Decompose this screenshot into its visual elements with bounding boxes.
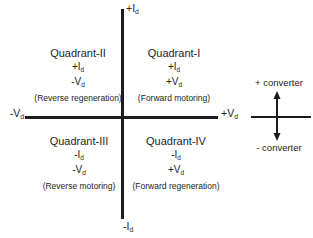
axis-label-plus-id: +Id	[126, 2, 139, 18]
four-quadrant-converter-diagram: +Id -Id -Vd +Vd Quadrant-II +Id -Vd (Rev…	[0, 0, 313, 238]
value-text: -V	[72, 164, 82, 175]
quadrant-4-title: Quadrant-IV	[121, 134, 231, 148]
value-subscript: d	[81, 66, 85, 73]
quadrant-1-block: Quadrant-I +Id +Vd (Forward motoring)	[119, 46, 229, 104]
positive-converter-label: + converter	[246, 77, 312, 88]
axis-label-text: +I	[126, 2, 135, 14]
quadrant-2-voltage-sign: -Vd	[23, 76, 133, 91]
value-subscript: d	[81, 81, 85, 88]
value-subscript: d	[80, 154, 84, 161]
up-down-arrow-icon	[271, 91, 283, 141]
axis-label-subscript: d	[135, 8, 139, 15]
axis-label-text: +V	[221, 107, 234, 119]
quadrant-1-voltage-sign: +Vd	[119, 76, 229, 91]
axis-label-subscript: d	[234, 113, 238, 120]
axis-label-minus-vd: -Vd	[2, 107, 24, 123]
quadrant-3-caption: (Reverse motoring)	[24, 181, 134, 192]
quadrant-2-title: Quadrant-II	[23, 46, 133, 60]
value-subscript: d	[177, 154, 181, 161]
quadrant-4-caption: (Forward regeneration)	[121, 181, 231, 192]
axis-label-subscript: d	[129, 226, 133, 233]
quadrant-3-block: Quadrant-III -Id -Vd (Reverse motoring)	[24, 134, 134, 192]
quadrant-1-current-sign: +Id	[119, 61, 229, 76]
axis-label-plus-vd: +Vd	[221, 107, 238, 123]
axis-label-minus-id: -Id	[123, 220, 133, 236]
value-text: -V	[71, 76, 81, 87]
value-subscript: d	[177, 66, 181, 73]
value-subscript: d	[180, 169, 184, 176]
value-subscript: d	[82, 169, 86, 176]
quadrant-4-current-sign: -Id	[121, 149, 231, 164]
value-text: +I	[168, 61, 177, 72]
quadrant-1-caption: (Forward motoring)	[119, 93, 229, 104]
axis-label-subscript: d	[20, 113, 24, 120]
value-text: +V	[168, 164, 181, 175]
horizontal-axis-line	[25, 116, 218, 119]
quadrant-3-voltage-sign: -Vd	[24, 164, 134, 179]
quadrant-2-current-sign: +Id	[23, 61, 133, 76]
quadrant-4-voltage-sign: +Vd	[121, 164, 231, 179]
quadrant-3-title: Quadrant-III	[24, 134, 134, 148]
quadrant-2-block: Quadrant-II +Id -Vd (Reverse regeneratio…	[23, 46, 133, 104]
quadrant-1-title: Quadrant-I	[119, 46, 229, 60]
quadrant-4-block: Quadrant-IV -Id +Vd (Forward regeneratio…	[121, 134, 231, 192]
quadrant-2-caption: (Reverse regeneration)	[23, 93, 133, 104]
negative-converter-label: - converter	[246, 142, 312, 153]
value-text: +V	[166, 76, 179, 87]
value-text: +I	[72, 61, 81, 72]
quadrant-3-current-sign: -Id	[24, 149, 134, 164]
value-subscript: d	[178, 81, 182, 88]
axis-label-text: -V	[10, 107, 21, 119]
